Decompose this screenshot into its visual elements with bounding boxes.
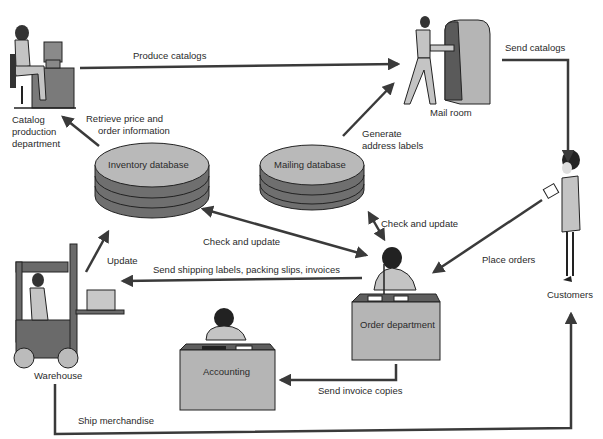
catalog-production-figure-icon [10,25,76,108]
arrow-send-shipping [123,278,362,281]
send-catalogs-label: Send catalogs [505,42,565,54]
retrieve-line-2: order information [86,125,170,137]
catalog-production-label: Catalog production department [12,114,60,150]
retrieve-line-1: Retrieve price and [86,113,170,125]
send-shipping-label: Send shipping labels, packing slips, inv… [153,264,340,276]
accounting-desk-icon [180,308,275,410]
arrow-check-update-inventory [203,209,366,255]
accounting-label: Accounting [203,366,250,378]
mail-room-figure-icon [404,16,490,104]
order-department-desk-icon [352,247,440,360]
customer-figure-icon [543,150,580,282]
retrieve-info-label: Retrieve price and order information [86,113,170,137]
send-invoice-label: Send invoice copies [318,385,403,397]
arrow-send-invoice [281,364,396,380]
check-update-mailing-label: Check and update [381,218,458,230]
mailing-database-icon [260,145,364,210]
order-department-label: Order department [360,319,435,331]
update-label: Update [107,255,138,267]
catalog-label-line-3: department [12,138,60,150]
arrow-send-catalogs [502,60,568,160]
produce-catalogs-label: Produce catalogs [133,50,206,62]
generate-labels-label: Generate address labels [362,128,423,152]
check-update-inventory-label: Check and update [203,236,280,248]
customers-label: Customers [547,289,593,301]
place-orders-label: Place orders [482,254,535,266]
inventory-database-label: Inventory database [108,159,189,171]
generate-line-2: address labels [362,140,423,152]
mailing-database-label: Mailing database [274,159,346,171]
generate-line-1: Generate [362,128,423,140]
ship-merchandise-label: Ship merchandise [78,415,154,427]
inventory-database-icon [95,143,209,218]
arrow-produce-catalogs [80,64,398,68]
process-diagram [0,0,603,439]
catalog-label-line-2: production [12,126,60,138]
mail-room-label: Mail room [430,107,472,119]
catalog-label-line-1: Catalog [12,114,60,126]
arrow-update [86,232,108,272]
warehouse-label: Warehouse [34,370,82,382]
